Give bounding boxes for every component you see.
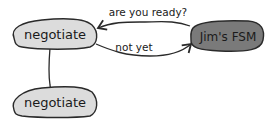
node-negotiate-top[interactable]: negotiate [13, 19, 96, 49]
fsm-diagram: negotiate Jim's FSM negotiate are you re… [0, 0, 272, 122]
node-label: negotiate [24, 95, 86, 110]
node-label: Jim's FSM [199, 30, 257, 44]
edge-are-you-ready [98, 22, 190, 28]
edge-label-are-you-ready: are you ready? [109, 6, 187, 18]
edge-label-not-yet: not yet [115, 41, 152, 53]
node-jims-fsm[interactable]: Jim's FSM [191, 21, 264, 51]
node-negotiate-bottom[interactable]: negotiate [13, 87, 96, 118]
node-label: negotiate [24, 27, 86, 42]
